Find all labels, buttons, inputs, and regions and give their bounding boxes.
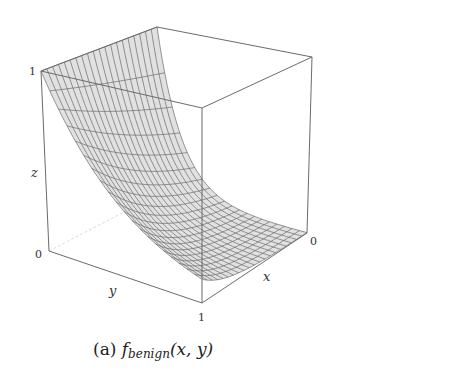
surface-fill	[41, 27, 307, 280]
caption-subscript: benign	[128, 347, 170, 361]
x-tick-0: 0	[310, 236, 317, 247]
surface-plot	[0, 0, 452, 379]
figure-caption: (a) fbenign(x, y)	[93, 339, 213, 361]
x-axis-label: x	[263, 270, 270, 283]
y-axis-label: y	[109, 284, 116, 297]
z-tick-0: 0	[35, 249, 42, 260]
caption-label: (a)	[93, 339, 116, 359]
z-tick-1: 1	[29, 66, 36, 77]
caption-args: (x, y)	[170, 339, 213, 359]
z-axis-label: z	[31, 166, 38, 179]
y-tick-1: 1	[198, 312, 205, 323]
